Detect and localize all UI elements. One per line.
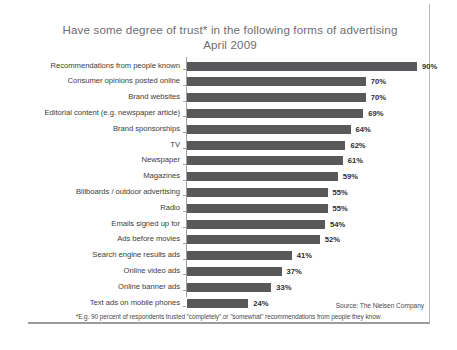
bar-chart: Have some degree of trust* in the follow… (0, 0, 457, 350)
axis-tick (183, 69, 186, 70)
category-label: Search engine results ads (8, 250, 180, 259)
axis-tick (183, 116, 186, 117)
bar (187, 62, 417, 71)
axis-tick (183, 164, 186, 165)
bar-row: Newspaper61% (0, 154, 457, 170)
bar-row: Emails signed up for54% (0, 218, 457, 234)
category-label: Radio (8, 203, 180, 212)
bar-value-label: 70% (371, 77, 386, 86)
bar (187, 235, 320, 244)
bar-value-label: 64% (356, 125, 371, 134)
axis-tick (183, 132, 186, 133)
bar-row: Ads before movies52% (0, 233, 457, 249)
axis-tick (183, 85, 186, 86)
bar-value-label: 33% (276, 283, 291, 292)
axis-tick (183, 195, 186, 196)
bar-row: TV62% (0, 139, 457, 155)
bar-value-label: 54% (330, 220, 345, 229)
bar (187, 188, 328, 197)
category-label: TV (8, 140, 180, 149)
category-label: Recommendations from people known (8, 61, 180, 70)
bar-value-label: 52% (325, 235, 340, 244)
bar (187, 141, 345, 150)
category-label: Ads before movies (8, 234, 180, 243)
bar-value-label: 37% (287, 267, 302, 276)
axis-tick (183, 274, 186, 275)
bar (187, 109, 363, 118)
bar-row: Brand sponsorships64% (0, 123, 457, 139)
category-label: Brand sponsorships (8, 124, 180, 133)
bar (187, 220, 325, 229)
bar (187, 77, 366, 86)
axis-tick (183, 101, 186, 102)
bar-value-label: 69% (368, 109, 383, 118)
bar-row: Recommendations from people known90% (0, 60, 457, 76)
bar (187, 93, 366, 102)
axis-tick (183, 290, 186, 291)
bar-value-label: 41% (297, 251, 312, 260)
bar-value-label: 61% (348, 156, 363, 165)
bar (187, 156, 343, 165)
category-label: Consumer opinions posted online (8, 76, 180, 85)
bar-row: Radio55% (0, 202, 457, 218)
category-label: Newspaper (8, 155, 180, 164)
bar (187, 267, 282, 276)
axis-tick (183, 211, 186, 212)
bar-value-label: 55% (333, 188, 348, 197)
category-label: Editorial content (e.g. newspaper articl… (8, 108, 180, 117)
axis-tick (183, 227, 186, 228)
bar (187, 251, 292, 260)
bar-value-label: 90% (422, 62, 437, 71)
axis-tick (183, 180, 186, 181)
bar-row: Magazines59% (0, 170, 457, 186)
bar-value-label: 55% (333, 204, 348, 213)
bar (187, 204, 328, 213)
category-label: Magazines (8, 171, 180, 180)
footnote: *E.g. 90 percent of respondents trusted … (30, 313, 426, 320)
chart-subtitle: April 2009 (34, 37, 426, 52)
bar-row: Online banner ads33% (0, 281, 457, 297)
category-label: Billboards / outdoor advertising (8, 187, 180, 196)
chart-title: Have some degree of trust* in the follow… (34, 22, 426, 37)
category-label: Emails signed up for (8, 219, 180, 228)
axis-tick (183, 243, 186, 244)
plot-area: Recommendations from people known90%Cons… (0, 57, 457, 299)
bar-row: Billboards / outdoor advertising55% (0, 186, 457, 202)
bar (187, 172, 338, 181)
bar-value-label: 62% (350, 141, 365, 150)
axis-tick (183, 259, 186, 260)
category-label: Online video ads (8, 266, 180, 275)
bar-value-label: 59% (343, 172, 358, 181)
category-label: Online banner ads (8, 282, 180, 291)
bar-value-label: 70% (371, 93, 386, 102)
bar-row: Brand websites70% (0, 91, 457, 107)
bar-row: Online video ads37% (0, 265, 457, 281)
bar (187, 283, 271, 292)
category-label: Brand websites (8, 92, 180, 101)
bar-row: Search engine results ads41% (0, 249, 457, 265)
bar-row: Editorial content (e.g. newspaper articl… (0, 107, 457, 123)
bar-row: Consumer opinions posted online70% (0, 75, 457, 91)
bar (187, 125, 351, 134)
source-note: Source: The Nielsen Company (0, 302, 424, 309)
axis-tick (183, 148, 186, 149)
